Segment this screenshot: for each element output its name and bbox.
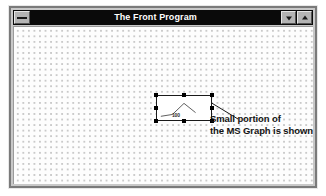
embedded-graph-object[interactable]: 100 <box>156 95 212 121</box>
selection-handle-nw[interactable] <box>154 93 158 97</box>
document-canvas[interactable]: 100 Small portion of the MS Graph is sho… <box>13 26 313 184</box>
application-window: The Front Program 100 <box>9 6 317 188</box>
window-title: The Front Program <box>30 11 281 24</box>
window-menu-glyph <box>17 17 27 19</box>
selection-handle-n[interactable] <box>182 93 186 97</box>
title-bar[interactable]: The Front Program <box>13 10 313 25</box>
annotation-line-1: Small portion of <box>210 113 313 125</box>
selection-handle-e[interactable] <box>210 106 214 110</box>
selection-handle-ne[interactable] <box>210 93 214 97</box>
annotation-line-2: the MS Graph is shown <box>210 125 313 137</box>
annotation-text[interactable]: Small portion of the MS Graph is shown <box>210 113 313 137</box>
selection-handle-w[interactable] <box>154 106 158 110</box>
graph-axis-tick-label: 100 <box>172 112 180 118</box>
selection-handle-sw[interactable] <box>154 119 158 123</box>
window-menu-icon[interactable] <box>14 11 30 24</box>
selection-handle-s[interactable] <box>182 119 186 123</box>
minimize-triangle-icon <box>286 16 292 20</box>
maximize-triangle-icon <box>302 15 308 19</box>
graph-plot-area <box>157 96 211 120</box>
minimize-button[interactable] <box>281 11 296 24</box>
maximize-button[interactable] <box>297 11 312 24</box>
